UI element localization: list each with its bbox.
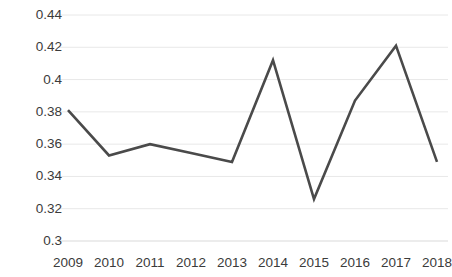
x-axis-tick-label: 2018 (422, 256, 452, 270)
x-axis-tick-label: 2017 (381, 256, 411, 270)
x-axis-tick-label: 2012 (176, 256, 206, 270)
x-axis-tick-label: 2016 (340, 256, 370, 270)
x-axis-tick-label: 2011 (135, 256, 164, 270)
x-axis-tick-label: 2015 (299, 256, 329, 270)
x-axis-tick-label: 2009 (53, 256, 83, 270)
x-axis-tick-label: 2014 (258, 256, 288, 270)
x-axis-tick-label: 2010 (94, 256, 124, 270)
x-axis-tick-label: 2013 (217, 256, 247, 270)
